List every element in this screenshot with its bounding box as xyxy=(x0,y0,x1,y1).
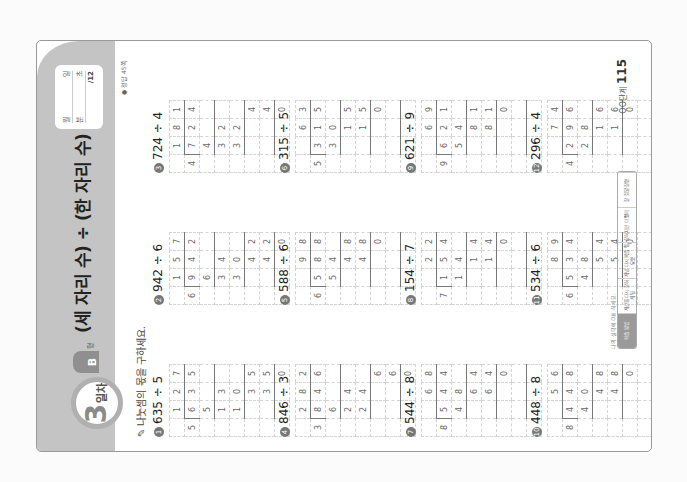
work-cell[interactable]: 1 xyxy=(452,269,467,287)
work-cell[interactable] xyxy=(512,287,527,305)
work-cell[interactable]: 1 xyxy=(482,101,497,119)
work-cell[interactable]: 4 xyxy=(452,401,467,419)
work-cell[interactable] xyxy=(200,365,215,383)
work-cell[interactable] xyxy=(245,269,260,287)
work-cell[interactable] xyxy=(371,269,386,287)
work-cell[interactable] xyxy=(326,155,341,173)
work-cell[interactable]: 4 xyxy=(467,233,482,251)
quotient-cell[interactable]: 2 xyxy=(422,233,437,251)
work-cell[interactable]: 6 xyxy=(386,365,401,383)
work-cell[interactable]: 5 xyxy=(200,401,215,419)
quotient-cell[interactable] xyxy=(422,137,437,155)
work-cell[interactable]: 0 xyxy=(497,101,512,119)
work-cell[interactable]: 2 xyxy=(245,233,260,251)
work-cell[interactable] xyxy=(452,101,467,119)
work-cell[interactable] xyxy=(593,401,608,419)
work-cell[interactable]: 8 xyxy=(467,119,482,137)
work-cell[interactable]: 3 xyxy=(230,269,245,287)
work-cell[interactable]: 1 xyxy=(467,101,482,119)
work-cell[interactable] xyxy=(467,401,482,419)
work-cell[interactable]: 0 xyxy=(326,119,341,137)
work-cell[interactable] xyxy=(356,365,371,383)
work-cell[interactable] xyxy=(578,287,593,305)
quotient-cell[interactable]: 1 xyxy=(170,137,185,155)
work-cell[interactable] xyxy=(482,419,497,437)
work-cell[interactable] xyxy=(512,119,527,137)
work-cell[interactable]: 0 xyxy=(371,233,386,251)
work-cell[interactable]: 1 xyxy=(215,401,230,419)
work-cell[interactable]: 8 xyxy=(452,383,467,401)
work-cell[interactable] xyxy=(452,365,467,383)
work-cell[interactable]: 4 xyxy=(245,101,260,119)
work-cell[interactable] xyxy=(200,155,215,173)
work-cell[interactable] xyxy=(638,251,653,269)
work-cell[interactable] xyxy=(245,155,260,173)
work-cell[interactable]: 4 xyxy=(593,233,608,251)
work-cell[interactable] xyxy=(593,419,608,437)
work-cell[interactable]: 3 xyxy=(326,137,341,155)
work-cell[interactable]: 4 xyxy=(593,383,608,401)
quotient-cell[interactable]: 8 xyxy=(548,251,563,269)
work-cell[interactable] xyxy=(341,137,356,155)
work-cell[interactable] xyxy=(371,119,386,137)
work-cell[interactable] xyxy=(578,155,593,173)
work-cell[interactable] xyxy=(497,401,512,419)
work-cell[interactable] xyxy=(371,251,386,269)
work-cell[interactable] xyxy=(482,287,497,305)
work-cell[interactable] xyxy=(215,233,230,251)
work-cell[interactable]: 6 xyxy=(326,401,341,419)
quotient-cell[interactable] xyxy=(296,137,311,155)
work-cell[interactable] xyxy=(593,155,608,173)
work-cell[interactable] xyxy=(200,251,215,269)
quotient-cell[interactable] xyxy=(422,269,437,287)
work-cell[interactable] xyxy=(482,137,497,155)
work-cell[interactable]: 2 xyxy=(260,233,275,251)
work-cell[interactable] xyxy=(497,251,512,269)
quotient-cell[interactable]: 1 xyxy=(170,401,185,419)
work-cell[interactable]: 8 xyxy=(578,251,593,269)
work-cell[interactable]: 8 xyxy=(482,119,497,137)
quotient-cell[interactable]: 9 xyxy=(296,251,311,269)
quotient-cell[interactable]: 9 xyxy=(422,101,437,119)
work-cell[interactable] xyxy=(386,287,401,305)
quotient-cell[interactable]: 8 xyxy=(422,365,437,383)
quotient-cell[interactable]: 1 xyxy=(170,269,185,287)
work-cell[interactable]: 0 xyxy=(578,383,593,401)
work-cell[interactable] xyxy=(230,365,245,383)
work-cell[interactable] xyxy=(245,119,260,137)
self-check-option[interactable]: 잘 정말 잘함 xyxy=(618,172,636,207)
work-cell[interactable]: 2 xyxy=(578,137,593,155)
work-cell[interactable] xyxy=(371,383,386,401)
work-cell[interactable] xyxy=(467,419,482,437)
work-cell[interactable]: 2 xyxy=(341,401,356,419)
work-cell[interactable]: 4 xyxy=(452,119,467,137)
work-cell[interactable]: 1 xyxy=(593,119,608,137)
work-cell[interactable] xyxy=(512,251,527,269)
work-cell[interactable] xyxy=(578,233,593,251)
quotient-cell[interactable]: 4 xyxy=(548,101,563,119)
work-cell[interactable] xyxy=(512,383,527,401)
work-cell[interactable]: 2 xyxy=(215,119,230,137)
self-check-option[interactable]: 잘하지만 더 빨리 xyxy=(618,207,636,242)
quotient-cell[interactable]: 5 xyxy=(548,383,563,401)
work-cell[interactable] xyxy=(215,155,230,173)
work-cell[interactable]: 8 xyxy=(578,119,593,137)
work-cell[interactable] xyxy=(386,155,401,173)
work-cell[interactable] xyxy=(497,383,512,401)
work-cell[interactable]: 4 xyxy=(578,269,593,287)
work-cell[interactable] xyxy=(245,287,260,305)
work-cell[interactable]: 4 xyxy=(341,251,356,269)
work-cell[interactable] xyxy=(512,233,527,251)
work-cell[interactable] xyxy=(497,287,512,305)
work-cell[interactable]: 1 xyxy=(341,119,356,137)
work-cell[interactable]: 2 xyxy=(356,401,371,419)
work-cell[interactable] xyxy=(326,101,341,119)
work-cell[interactable]: 0 xyxy=(497,233,512,251)
work-cell[interactable] xyxy=(638,233,653,251)
work-cell[interactable] xyxy=(638,155,653,173)
work-cell[interactable] xyxy=(341,269,356,287)
work-cell[interactable] xyxy=(386,401,401,419)
work-cell[interactable] xyxy=(326,365,341,383)
quotient-cell[interactable] xyxy=(422,401,437,419)
work-cell[interactable]: 5 xyxy=(341,101,356,119)
